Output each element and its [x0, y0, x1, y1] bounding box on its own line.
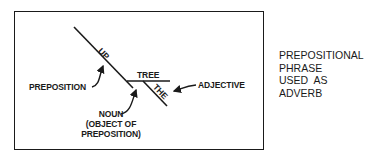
caption: PREPOSITIONAL PHRASE USED AS ADVERB [279, 49, 364, 99]
label-noun-line3: PREPOSITION) [76, 129, 146, 139]
caption-line1: PREPOSITIONAL [279, 49, 364, 62]
caption-line2: PHRASE [279, 62, 364, 75]
label-adjective: ADJECTIVE [198, 80, 245, 90]
adjective-arrow [174, 85, 196, 91]
caption-line4: ADVERB [279, 87, 364, 100]
label-noun: NOUN (OBJECT OF PREPOSITION) [76, 109, 146, 139]
label-noun-line2: (OBJECT OF [76, 119, 146, 129]
caption-line3: USED AS [279, 74, 364, 87]
label-preposition: PREPOSITION [29, 82, 86, 92]
word-tree: TREE [137, 70, 159, 80]
label-noun-line1: NOUN [76, 109, 146, 119]
preposition-arrow [92, 66, 103, 87]
